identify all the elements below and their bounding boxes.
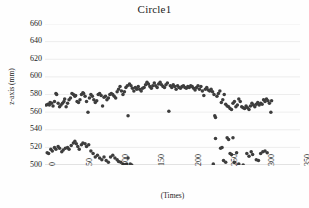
data-point bbox=[230, 108, 234, 112]
data-point bbox=[132, 89, 136, 93]
data-point bbox=[51, 149, 55, 153]
data-point bbox=[221, 98, 225, 102]
y-tick-label: 660 bbox=[2, 19, 42, 28]
data-point bbox=[166, 81, 170, 85]
y-tick-label: 560 bbox=[2, 107, 42, 116]
data-point bbox=[74, 94, 78, 98]
data-point bbox=[101, 104, 105, 108]
data-point bbox=[214, 137, 218, 141]
y-tick-label: 640 bbox=[2, 36, 42, 45]
data-point bbox=[114, 96, 118, 100]
data-point bbox=[218, 89, 222, 93]
data-point bbox=[66, 102, 70, 106]
x-axis-tick-labels: 050100150200250300350 bbox=[45, 166, 300, 194]
data-point bbox=[257, 159, 261, 163]
data-point bbox=[56, 102, 60, 106]
x-tick-label: 300 bbox=[267, 154, 276, 166]
data-point bbox=[212, 93, 216, 97]
data-point bbox=[47, 152, 51, 156]
data-point bbox=[224, 161, 228, 165]
y-tick-label: 620 bbox=[2, 54, 42, 63]
data-point bbox=[58, 147, 62, 151]
data-point bbox=[91, 95, 95, 99]
data-point bbox=[155, 86, 159, 90]
data-point bbox=[212, 162, 216, 165]
data-point bbox=[123, 90, 127, 94]
plot-area bbox=[45, 24, 300, 165]
y-tick-label: 600 bbox=[2, 71, 42, 80]
data-point bbox=[269, 110, 273, 114]
data-point bbox=[53, 100, 57, 104]
data-point bbox=[227, 138, 231, 142]
scatter-plot-svg bbox=[45, 24, 300, 165]
data-point bbox=[167, 109, 171, 113]
y-tick-label: 580 bbox=[2, 89, 42, 98]
data-point bbox=[201, 89, 205, 93]
data-point bbox=[91, 152, 95, 156]
data-point bbox=[199, 85, 203, 89]
data-point bbox=[220, 146, 224, 150]
y-tick-label: 540 bbox=[2, 124, 42, 133]
data-point bbox=[174, 87, 178, 91]
data-point bbox=[241, 163, 245, 165]
data-point bbox=[78, 98, 82, 102]
data-point bbox=[64, 105, 68, 109]
x-tick-label: 0 bbox=[48, 162, 57, 166]
data-point bbox=[236, 103, 240, 107]
data-point bbox=[126, 114, 130, 118]
data-point bbox=[247, 154, 251, 158]
data-point bbox=[67, 147, 71, 151]
data-point bbox=[107, 161, 111, 165]
data-point bbox=[233, 100, 237, 104]
x-tick-label: 100 bbox=[121, 154, 130, 166]
data-point bbox=[118, 85, 122, 89]
x-tick-label: 250 bbox=[230, 154, 239, 166]
y-tick-label: 520 bbox=[2, 142, 42, 151]
data-point bbox=[247, 108, 251, 112]
data-point bbox=[51, 104, 55, 108]
x-tick-label: 150 bbox=[157, 154, 166, 166]
data-point bbox=[222, 93, 226, 97]
data-point bbox=[83, 95, 87, 99]
data-point bbox=[95, 99, 99, 103]
data-point bbox=[99, 94, 103, 98]
data-point bbox=[251, 153, 255, 157]
data-point bbox=[63, 97, 67, 101]
data-point bbox=[77, 147, 81, 151]
data-series bbox=[45, 80, 273, 119]
data-point bbox=[202, 94, 206, 98]
x-tick-label: 50 bbox=[85, 158, 94, 166]
y-axis-tick-labels: 500520540560580600620640660 bbox=[0, 24, 42, 165]
x-tick-label: 350 bbox=[303, 154, 309, 166]
data-point bbox=[260, 102, 264, 106]
chart-title: Circle1 bbox=[0, 3, 309, 15]
data-points-layer bbox=[45, 80, 273, 165]
data-point bbox=[214, 116, 218, 120]
data-point bbox=[55, 93, 59, 97]
data-point bbox=[231, 136, 235, 140]
data-point bbox=[86, 110, 90, 114]
x-axis-title: (Times) bbox=[45, 191, 300, 200]
data-point bbox=[104, 95, 108, 99]
data-point bbox=[270, 99, 274, 103]
data-point bbox=[69, 96, 73, 100]
data-point bbox=[102, 155, 106, 159]
data-point bbox=[88, 96, 92, 100]
chart-container: Circle1 z-axis (mm) 50052054056058060062… bbox=[0, 0, 309, 208]
y-tick-label: 500 bbox=[2, 160, 42, 169]
data-point bbox=[87, 143, 91, 147]
x-tick-label: 200 bbox=[194, 154, 203, 166]
data-point bbox=[107, 96, 111, 100]
data-point bbox=[85, 100, 89, 104]
data-point bbox=[239, 100, 243, 104]
